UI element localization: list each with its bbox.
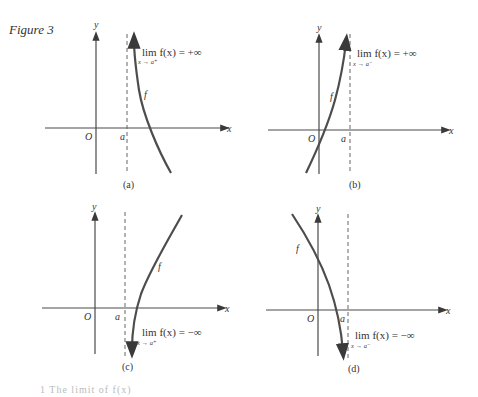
origin-label: O: [308, 133, 315, 144]
curve-label: f: [296, 243, 300, 254]
limit-subscript: x → a⁺: [137, 58, 157, 65]
curve-label: f: [144, 89, 148, 100]
footer-text: 1 The limit of f(x): [40, 384, 132, 395]
x-axis-label: x: [226, 123, 232, 134]
panel-b: y x O a f lim f(x) = +∞ x → a⁻ (b): [240, 0, 478, 200]
origin-label: O: [85, 131, 92, 142]
limit-expression: lim f(x) = −∞: [355, 329, 415, 342]
x-axis-label: x: [224, 303, 230, 314]
y-axis-label: y: [93, 19, 99, 30]
limit-subscript: x → a⁻: [352, 60, 372, 67]
y-axis-label: y: [315, 203, 321, 214]
limit-expression: lim f(x) = −∞: [142, 326, 202, 339]
limit-expression: lim f(x) = +∞: [357, 47, 417, 60]
x-axis-label: x: [448, 125, 454, 136]
x-axis-label: x: [445, 305, 451, 316]
function-curve: [306, 42, 346, 173]
asymptote-label: a: [120, 131, 125, 142]
curve-label: f: [330, 91, 334, 102]
limit-subscript: x → a⁺: [136, 339, 156, 346]
panel-a: y x O a f lim f(x) = +∞ x → a⁺ (a): [0, 0, 240, 200]
panel-caption: (d): [348, 363, 360, 375]
origin-label: O: [84, 311, 91, 322]
panel-caption: (c): [122, 361, 133, 373]
asymptote-label: a: [340, 313, 345, 324]
asymptote-label: a: [341, 133, 346, 144]
asymptote-label: a: [115, 311, 120, 322]
curve-label: f: [158, 261, 162, 272]
panel-d: y x O a f lim f(x) = −∞ x → a⁻ (d): [240, 190, 478, 397]
y-axis-label: y: [316, 22, 322, 33]
panel-c: y x O a f lim f(x) = −∞ x → a⁺ (c): [0, 190, 240, 397]
origin-label: O: [307, 313, 314, 324]
y-axis-label: y: [91, 201, 97, 212]
limit-subscript: x → a⁻: [350, 342, 370, 349]
